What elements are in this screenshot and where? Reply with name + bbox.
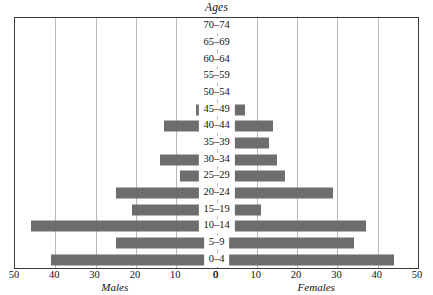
pyramid-row: 60–64 <box>15 51 418 68</box>
male-bar <box>51 254 216 265</box>
male-bar <box>116 237 217 248</box>
males-caption: Males <box>101 282 128 293</box>
x-tick-label-right: 50 <box>412 270 423 281</box>
x-tick-label-left: 50 <box>9 270 20 281</box>
age-group-label: 5–9 <box>204 236 230 250</box>
x-tick-label-right: 20 <box>291 270 302 281</box>
age-group-label: 45–49 <box>198 103 234 117</box>
pyramid-row: 65–69 <box>15 35 418 52</box>
female-bar <box>217 237 354 248</box>
age-group-label: 55–59 <box>198 70 234 84</box>
age-group-label: 70–74 <box>198 20 234 34</box>
pyramid-row: 70–74 <box>15 18 418 35</box>
age-group-label: 20–24 <box>198 186 234 200</box>
chart-title: Ages <box>0 1 433 13</box>
female-bar <box>217 221 366 232</box>
x-tick-label-left: 20 <box>130 270 141 281</box>
age-group-label: 0–4 <box>204 253 230 267</box>
age-group-label: 50–54 <box>198 86 234 100</box>
x-tick-label-left: 30 <box>89 270 100 281</box>
age-group-label: 10–14 <box>198 220 234 234</box>
population-pyramid-chart: Ages 70–7465–6960–6455–5950–5445–4940–44… <box>0 0 433 295</box>
pyramid-row: 45–49 <box>15 101 418 118</box>
bar-rows: 70–7465–6960–6455–5950–5445–4940–4435–39… <box>15 18 418 268</box>
pyramid-row: 40–44 <box>15 118 418 135</box>
pyramid-row: 50–54 <box>15 85 418 102</box>
x-tick-label-right: 0 <box>213 270 218 281</box>
axis-captions: MalesFemales <box>14 282 419 295</box>
pyramid-row: 10–14 <box>15 218 418 235</box>
age-group-label: 60–64 <box>198 53 234 67</box>
females-caption: Females <box>298 282 335 293</box>
pyramid-row: 35–39 <box>15 135 418 152</box>
plot-area: 70–7465–6960–6455–5950–5445–4940–4435–39… <box>14 17 419 269</box>
age-group-label: 25–29 <box>198 170 234 184</box>
age-group-label: 35–39 <box>198 136 234 150</box>
x-tick-label-right: 10 <box>251 270 262 281</box>
male-bar <box>31 221 216 232</box>
x-tick-label-left: 40 <box>49 270 60 281</box>
x-tick-label-left: 10 <box>170 270 181 281</box>
pyramid-row: 30–34 <box>15 151 418 168</box>
age-group-label: 65–69 <box>198 36 234 50</box>
x-tick-label-right: 30 <box>331 270 342 281</box>
pyramid-row: 5–9 <box>15 235 418 252</box>
age-group-label: 40–44 <box>198 120 234 134</box>
x-tick-label-right: 40 <box>371 270 382 281</box>
pyramid-row: 15–19 <box>15 201 418 218</box>
female-bar <box>217 254 394 265</box>
pyramid-row: 55–59 <box>15 68 418 85</box>
pyramid-row: 0–4 <box>15 251 418 268</box>
age-group-label: 30–34 <box>198 153 234 167</box>
pyramid-row: 25–29 <box>15 168 418 185</box>
age-group-label: 15–19 <box>198 203 234 217</box>
pyramid-row: 20–24 <box>15 185 418 202</box>
